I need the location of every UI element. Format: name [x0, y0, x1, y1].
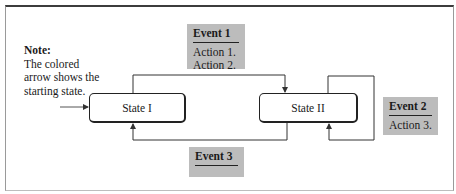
event-1-box: Event 1 Action 1. Action 2. — [187, 24, 245, 69]
transition-event-1 — [133, 75, 285, 93]
event-2-action: Action 3. — [389, 119, 432, 132]
state-1-box: State I — [89, 93, 186, 123]
note-line: The colored — [24, 58, 99, 72]
state-1-label: State I — [122, 102, 152, 114]
note-heading: Note: — [24, 44, 99, 58]
note-line: starting state. — [24, 85, 99, 99]
event-1-action: Action 1. — [193, 46, 239, 59]
note: Note: The colored arrow shows the starti… — [24, 44, 99, 98]
event-1-action: Action 2. — [193, 59, 239, 72]
event-3-name: Event 3 — [195, 150, 238, 166]
state-2-box: State II — [259, 93, 358, 123]
event-2-name: Event 2 — [389, 100, 432, 116]
note-line: arrow shows the — [24, 71, 99, 85]
event-2-box: Event 2 Action 3. — [383, 97, 438, 135]
event-1-name: Event 1 — [193, 27, 239, 43]
state-2-label: State II — [291, 102, 325, 114]
event-3-box: Event 3 — [189, 147, 244, 177]
transition-event-3 — [133, 123, 287, 140]
